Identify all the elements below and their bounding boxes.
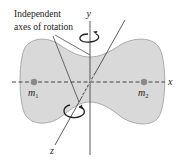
rotation-arrow-y-icon [80, 31, 99, 42]
y-axis-label: y [86, 8, 92, 19]
annotation-line-2: axes of rotation [14, 22, 73, 32]
z-axis-label: z [49, 145, 54, 156]
mass-1-dot [31, 79, 37, 85]
mass-1-subscript: 1 [35, 92, 38, 99]
mass-1-symbol: m [28, 87, 35, 98]
mass-2-symbol: m [138, 87, 145, 98]
rotation-axes-diagram: Independent axes of rotation y x z m1 m2 [0, 0, 183, 166]
annotation-line-1: Independent [14, 9, 61, 19]
mass-2-dot [141, 79, 147, 85]
x-axis-label: x [167, 76, 173, 87]
mass-2-subscript: 2 [145, 92, 148, 99]
